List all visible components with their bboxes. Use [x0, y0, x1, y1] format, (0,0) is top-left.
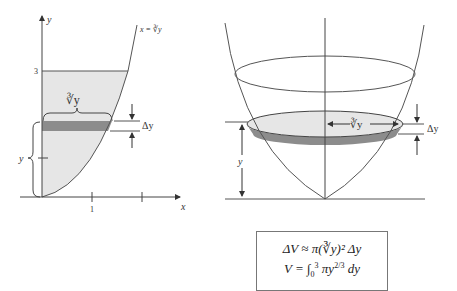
formula-dv-root: ∛y: [323, 241, 337, 256]
radius-label: ∛y: [350, 117, 363, 130]
formula-v-lhs: V =: [284, 261, 307, 276]
integral-lower: 0: [311, 270, 315, 279]
curve-label: x = ∛y: [139, 24, 162, 34]
formula-box: ΔV ≈ π(∛y)² Δy V = ∫03 πy2/3 dy: [256, 231, 388, 291]
x-tick-1-label: 1: [90, 205, 94, 214]
y-tick-3-label: 3: [34, 67, 38, 76]
height-label: y: [237, 156, 243, 167]
left-figure: y x 1 3 x = ∛y ∛y Δy y: [18, 14, 186, 214]
right-figure: ∛y y Δy: [225, 18, 438, 199]
dy-label: Δy: [427, 123, 438, 134]
y-axis-label: y: [46, 14, 52, 25]
shaded-region: [42, 71, 128, 197]
formula-v: V = ∫03 πy2/3 dy: [257, 261, 387, 279]
formula-dv: ΔV ≈ π(∛y)² Δy: [257, 241, 387, 257]
height-brace: [28, 122, 40, 197]
height-label: y: [18, 153, 24, 164]
x-axis-label: x: [180, 201, 186, 212]
formula-v-tail: dy: [344, 261, 360, 276]
formula-dv-prefix: ΔV ≈ π(: [283, 241, 323, 256]
formula-dv-suffix: )² Δy: [337, 241, 362, 256]
formula-v-exponent: 2/3: [334, 261, 344, 270]
formula-v-body: πy: [319, 261, 335, 276]
dy-label: Δy: [142, 120, 153, 131]
strip: [42, 121, 112, 131]
strip-width-label: ∛y: [66, 92, 80, 107]
